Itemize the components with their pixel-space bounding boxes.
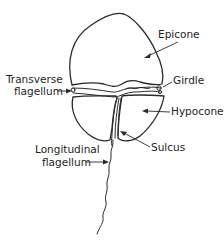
label-girdle: Girdle [173, 74, 204, 86]
label-longitudinal-1: Longitudinal [35, 143, 100, 155]
label-transverse-2: flagellum [14, 85, 63, 97]
label-transverse-1: Transverse [5, 73, 63, 85]
hypocone-shape [72, 96, 117, 141]
dinoflagellate-diagram: Epicone Transverse flagellum Girdle Hypo… [0, 0, 224, 247]
label-longitudinal-2: flagellum [42, 156, 91, 168]
label-hypocone: Hypocone [171, 105, 224, 117]
label-epicone: Epicone [158, 28, 200, 40]
epicone-shape [70, 14, 163, 87]
label-sulcus: Sulcus [151, 141, 185, 153]
